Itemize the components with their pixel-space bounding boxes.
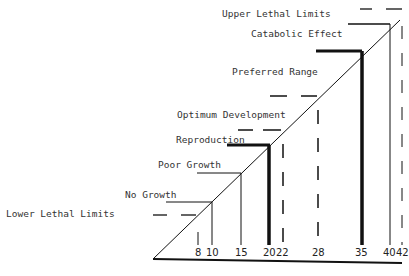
zone-lower-lethal-limits: Lower Lethal Limits <box>6 208 198 245</box>
tick-20: 20 <box>263 247 276 258</box>
label-reproduction: Reproduction <box>176 134 245 145</box>
label-catabolic-effect: Catabolic Effect <box>251 28 343 39</box>
zone-reproduction: Reproduction <box>176 134 270 245</box>
baseline <box>153 259 402 263</box>
label-poor-growth: Poor Growth <box>158 159 221 170</box>
tick-22: 22 <box>276 247 289 258</box>
tick-10: 10 <box>206 247 219 258</box>
label-lower-lethal-limits: Lower Lethal Limits <box>6 208 115 219</box>
zone-no-growth: No Growth <box>125 189 212 245</box>
label-upper-lethal-limits: Upper Lethal Limits <box>222 8 331 19</box>
tick-labels: 8 10 15 20 22 28 35 40 42 <box>195 247 409 258</box>
tick-28: 28 <box>312 247 325 258</box>
tick-35: 35 <box>355 247 368 258</box>
tick-42: 42 <box>396 247 409 258</box>
label-no-growth: No Growth <box>125 189 176 200</box>
label-optimum-development: Optimum Development <box>177 109 286 120</box>
zone-upper-lethal-limits: Upper Lethal Limits <box>222 8 390 245</box>
zone-preferred-range: Preferred Range <box>232 66 318 245</box>
zone-42 <box>360 9 402 245</box>
label-preferred-range: Preferred Range <box>232 66 318 77</box>
tick-15: 15 <box>235 247 248 258</box>
tick-40: 40 <box>383 247 396 258</box>
temperature-tolerance-diagram: Lower Lethal Limits No Growth Poor Growt… <box>0 0 409 276</box>
tick-8: 8 <box>195 247 201 258</box>
